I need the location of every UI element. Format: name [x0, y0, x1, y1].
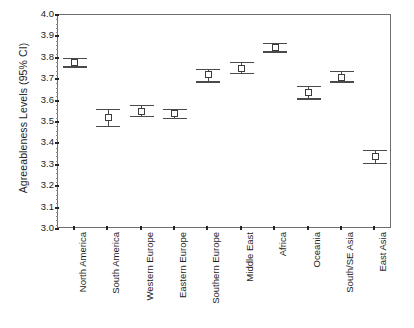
y-tick-mark — [55, 142, 59, 144]
y-tick-minor — [56, 161, 58, 162]
y-tick-mark — [55, 78, 59, 80]
data-point-marker — [338, 74, 345, 81]
y-tick-minor — [56, 32, 58, 33]
x-tick-label: Oceania — [312, 232, 322, 267]
x-tick-label: Africa — [278, 232, 288, 256]
x-tick-label: Eastern Europe — [178, 232, 188, 298]
error-bar-cap-lower — [297, 98, 321, 99]
error-bar-cap-upper — [363, 150, 387, 151]
y-tick-minor — [56, 216, 58, 217]
y-tick-minor — [56, 190, 58, 191]
y-tick-minor — [56, 135, 58, 136]
error-bar-cap-upper — [230, 62, 254, 63]
y-tick-minor — [56, 41, 58, 42]
y-tick-minor — [56, 19, 58, 20]
y-tick-mark — [55, 35, 59, 37]
error-bar-cap-upper — [196, 69, 220, 70]
data-point-marker — [71, 59, 78, 66]
error-bar-cap-lower — [130, 116, 154, 117]
y-tick-mark — [55, 57, 59, 59]
error-bar-cap-lower — [363, 163, 387, 164]
error-bar-cap-lower — [330, 81, 354, 82]
y-tick-minor — [56, 118, 58, 119]
y-tick-minor — [56, 199, 58, 200]
y-tick-minor — [56, 220, 58, 221]
y-tick-label: 3.0 — [28, 223, 54, 233]
y-tick-mark — [55, 164, 59, 166]
y-tick-mark — [55, 121, 59, 123]
y-tick-label: 3.6 — [28, 95, 54, 105]
y-axis-tick-labels: 4.03.93.83.73.63.53.43.33.23.13.0 — [26, 0, 54, 328]
y-tick-minor — [56, 131, 58, 132]
x-tick-mark — [340, 226, 342, 230]
data-point-marker — [238, 65, 245, 72]
x-tick-label: East Asia — [378, 232, 388, 272]
data-point-marker — [205, 71, 212, 78]
x-tick-label: North America — [78, 232, 88, 292]
x-tick-mark — [240, 226, 242, 230]
y-tick-mark — [55, 14, 59, 16]
y-tick-minor — [56, 139, 58, 140]
y-tick-minor — [56, 203, 58, 204]
y-tick-label: 3.5 — [28, 116, 54, 126]
y-tick-mark — [55, 185, 59, 187]
error-bar-cap-lower — [163, 118, 187, 119]
error-bar-cap-upper — [297, 86, 321, 87]
y-tick-minor — [56, 96, 58, 97]
x-tick-label: South America — [111, 232, 121, 294]
x-tick-mark — [273, 226, 275, 230]
x-tick-label: Middle East — [245, 232, 255, 282]
y-tick-minor — [56, 24, 58, 25]
error-bar-cap-lower — [96, 126, 120, 127]
y-tick-label: 4.0 — [28, 9, 54, 19]
y-tick-minor — [56, 182, 58, 183]
y-tick-label: 3.3 — [28, 159, 54, 169]
error-bar-cap-lower — [63, 66, 87, 67]
y-tick-minor — [56, 195, 58, 196]
y-tick-minor — [56, 152, 58, 153]
data-point-marker — [138, 108, 145, 115]
y-tick-minor — [56, 71, 58, 72]
y-tick-label: 3.9 — [28, 30, 54, 40]
y-tick-minor — [56, 148, 58, 149]
x-tick-mark — [73, 226, 75, 230]
y-tick-minor — [56, 83, 58, 84]
y-tick-minor — [56, 169, 58, 170]
y-tick-mark — [55, 207, 59, 209]
y-tick-label: 3.4 — [28, 137, 54, 147]
y-tick-minor — [56, 109, 58, 110]
x-tick-label: South/SE Asia — [345, 232, 355, 293]
error-bar-cap-lower — [230, 73, 254, 74]
y-tick-label: 3.1 — [28, 202, 54, 212]
y-tick-minor — [56, 45, 58, 46]
chart-figure: Agreeableness Levels (95% CI) 4.03.93.83… — [0, 0, 414, 328]
error-bar-cap-upper — [130, 105, 154, 106]
data-point-marker — [171, 110, 178, 117]
x-axis: North AmericaSouth AmericaWestern Europe… — [57, 228, 391, 328]
y-tick-minor — [56, 178, 58, 179]
x-tick-mark — [173, 226, 175, 230]
x-tick-mark — [307, 226, 309, 230]
y-tick-minor — [56, 62, 58, 63]
plot-area — [57, 14, 391, 228]
x-tick-mark — [373, 226, 375, 230]
y-tick-minor — [56, 105, 58, 106]
y-tick-minor — [56, 75, 58, 76]
y-tick-minor — [56, 156, 58, 157]
data-point-marker — [305, 89, 312, 96]
y-tick-minor — [56, 92, 58, 93]
y-tick-label: 3.2 — [28, 180, 54, 190]
x-tick-mark — [140, 226, 142, 230]
y-tick-minor — [56, 28, 58, 29]
error-bar-cap-upper — [330, 71, 354, 72]
error-bar-cap-upper — [96, 109, 120, 110]
data-point-marker — [272, 44, 279, 51]
data-point-marker — [105, 114, 112, 121]
y-tick-minor — [56, 126, 58, 127]
y-tick-label: 3.8 — [28, 52, 54, 62]
data-point-marker — [372, 153, 379, 160]
error-bar-cap-lower — [196, 81, 220, 82]
y-tick-minor — [56, 212, 58, 213]
x-tick-label: Western Europe — [145, 232, 155, 300]
y-tick-mark — [55, 100, 59, 102]
